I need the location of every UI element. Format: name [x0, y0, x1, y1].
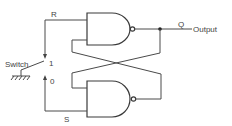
top-nand-gate	[87, 13, 135, 45]
bottom-nand-gate	[87, 81, 136, 117]
top-gate-inversion-bubble	[130, 27, 134, 31]
r-wire	[45, 20, 87, 57]
r-label: R	[51, 10, 57, 19]
r-arrow-icon	[43, 54, 47, 59]
s-label: S	[64, 115, 69, 124]
circuit-svg: R S Q Output Switch 1 0	[0, 0, 232, 126]
s-arrow-icon	[43, 75, 47, 80]
switch-label: Switch	[5, 60, 29, 69]
ground-icon	[11, 76, 30, 80]
position-1-label: 1	[49, 59, 54, 68]
bottom-gate-inversion-bubble	[131, 97, 135, 101]
flip-flop-diagram: R S Q Output Switch 1 0	[0, 0, 232, 126]
position-0-label: 0	[50, 77, 55, 86]
output-label: Output	[193, 25, 218, 34]
q-label: Q	[178, 20, 184, 29]
